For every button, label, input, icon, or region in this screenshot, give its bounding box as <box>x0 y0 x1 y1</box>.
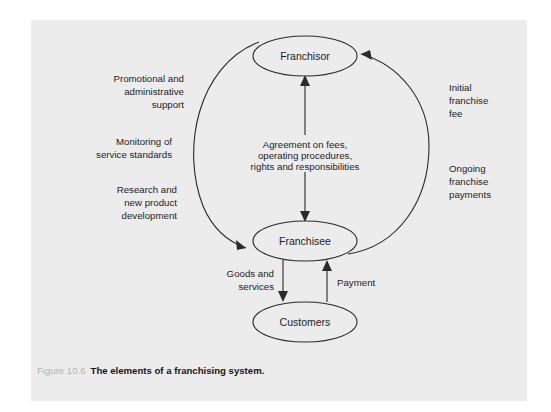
label-goods-services-line-1: Goods and <box>227 268 274 279</box>
label-initial-fee-line-1: Initial <box>449 82 472 93</box>
label-research-development-line-3: development <box>122 210 178 221</box>
label-ongoing-payments-line-2: franchise <box>449 176 488 187</box>
agreement-text-line-2: operating procedures, <box>258 150 352 161</box>
label-promotional-support-line-3: support <box>152 99 185 110</box>
figure-panel: Franchisor Franchisee Customers Agreemen… <box>31 20 527 401</box>
node-customers-label: Customers <box>280 316 331 328</box>
arrowhead-to-franchisee <box>236 240 246 250</box>
arc-franchisor-to-franchisee <box>194 42 259 248</box>
caption-title: The elements of a franchising system. <box>91 365 265 376</box>
figure-caption: Figure 10.6The elements of a franchising… <box>37 364 264 378</box>
label-initial-fee-line-2: franchise <box>449 95 488 106</box>
label-ongoing-payments-line-1: Ongoing <box>449 163 486 174</box>
label-research-development-line-2: new product <box>124 197 177 208</box>
label-promotional-support-line-2: administrative <box>124 86 184 97</box>
label-promotional-support-line-1: Promotional and <box>113 73 184 84</box>
label-monitoring-standards-line-2: service standards <box>96 149 172 160</box>
arrowhead-agreement-up <box>300 75 310 86</box>
caption-figure-number: Figure 10.6 <box>37 365 86 376</box>
arc-franchisee-to-franchisor <box>348 54 429 254</box>
label-ongoing-payments-line-3: payments <box>449 189 491 200</box>
label-research-development-line-1: Research and <box>117 184 177 195</box>
figure-root: Franchisor Franchisee Customers Agreemen… <box>0 0 551 412</box>
agreement-text-line-1: Agreement on fees, <box>263 139 348 150</box>
arrowhead-goods-down <box>278 291 288 302</box>
label-monitoring-standards-line-1: Monitoring of <box>116 136 172 147</box>
node-franchisor-label: Franchisor <box>280 50 330 62</box>
arrowhead-agreement-down <box>300 211 310 222</box>
franchising-system-diagram: Franchisor Franchisee Customers Agreemen… <box>31 20 527 401</box>
label-initial-fee-line-3: fee <box>449 108 462 119</box>
label-payment: Payment <box>337 277 376 288</box>
arrowhead-payment-up <box>322 260 332 271</box>
label-goods-services-line-2: services <box>238 281 274 292</box>
agreement-text-line-3: rights and responsibilities <box>251 161 360 172</box>
node-franchisee-label: Franchisee <box>279 235 331 247</box>
